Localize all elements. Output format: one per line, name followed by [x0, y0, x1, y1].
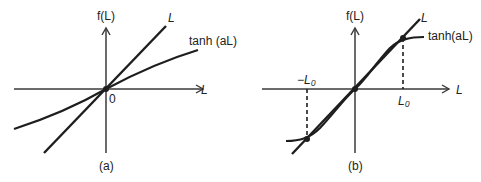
- line-label: L: [421, 11, 428, 25]
- x-axis-label: L: [201, 83, 208, 97]
- origin-dot: [352, 86, 358, 92]
- origin-label: 0: [109, 92, 116, 106]
- y-axis-label: f(L): [97, 9, 115, 23]
- panel-b: f(L) L L tanh(aL) L₀ −L₀ (b): [262, 9, 473, 173]
- x-axis-label: L: [456, 83, 463, 97]
- panel-a: f(L) L 0 L tanh (aL) (a): [14, 9, 237, 173]
- curve-label: tanh(aL): [428, 29, 473, 43]
- intersection-neg-dot: [304, 136, 310, 142]
- caption-b: (b): [348, 159, 363, 173]
- line-label: L: [168, 11, 175, 25]
- neg-intersection-label: −L₀: [297, 73, 316, 87]
- intersection-pos-dot: [400, 35, 406, 41]
- y-axis-label: f(L): [346, 9, 364, 23]
- figure: f(L) L 0 L tanh (aL) (a) f(L) L L tanh(a…: [0, 0, 481, 182]
- curve-label: tanh (aL): [189, 34, 237, 48]
- caption-a: (a): [99, 159, 114, 173]
- pos-intersection-label: L₀: [398, 94, 410, 108]
